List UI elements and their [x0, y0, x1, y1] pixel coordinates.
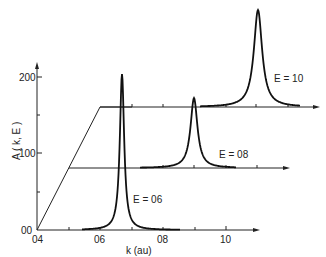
label-e10: E = 10: [274, 73, 304, 84]
x-tick-06: 06: [94, 234, 106, 245]
x-axis-label: k (au): [126, 245, 152, 256]
arrow-icon: [313, 105, 320, 109]
curve-e10: [200, 10, 300, 106]
label-e08: E = 08: [219, 149, 249, 160]
arrow-icon: [283, 166, 290, 170]
y-axis-label: A ( k, E ): [11, 122, 22, 160]
y-tick-200: 200: [19, 72, 36, 83]
y-axis-arrow-icon: [35, 62, 39, 69]
x-tick-10: 10: [220, 234, 232, 245]
x-tick-04: 04: [32, 234, 44, 245]
x-axis-arrow-icon: [253, 228, 260, 232]
curve-e06: [82, 74, 180, 230]
x-tick-08: 08: [157, 234, 169, 245]
spectral-function-chart: 200 100 00 04 06 08 10 k (au) A ( k, E )…: [0, 0, 326, 257]
label-e06: E = 06: [133, 194, 163, 205]
y-tick-0: 00: [21, 225, 33, 236]
